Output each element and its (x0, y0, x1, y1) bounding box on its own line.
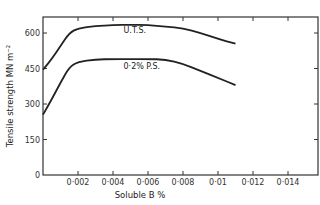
x-tick-label: 0·014 (277, 178, 300, 187)
proof-stress-label: 0·2% P.S. (124, 62, 161, 71)
y-tick-label: 0 (35, 171, 40, 180)
y-tick-label: 450 (25, 65, 40, 74)
tensile-strength-chart: 0150300450600 0·0020·0040·0060·0080·010·… (0, 0, 320, 205)
y-tick-label: 600 (25, 29, 40, 38)
x-tick-label: 0·012 (242, 178, 265, 187)
plot-frame (43, 17, 318, 175)
plot-border (43, 17, 318, 175)
data-series: U.T.S.0·2% P.S. (43, 25, 236, 115)
y-tick-label: 300 (25, 100, 40, 109)
y-axis: 0150300450600 (25, 29, 318, 180)
uts-label: U.T.S. (124, 26, 147, 35)
x-tick-label: 0·002 (67, 178, 90, 187)
y-axis-label: Tensile strength MN m⁻² (5, 45, 15, 149)
x-tick-label: 0·004 (102, 178, 125, 187)
x-axis: 0·0020·0040·0060·0080·010·0120·014 (67, 17, 300, 187)
x-axis-label: Soluble B % (115, 190, 166, 200)
x-tick-label: 0·006 (137, 178, 160, 187)
x-tick-label: 0·008 (172, 178, 195, 187)
y-tick-label: 150 (25, 136, 40, 145)
x-tick-label: 0·01 (209, 178, 227, 187)
